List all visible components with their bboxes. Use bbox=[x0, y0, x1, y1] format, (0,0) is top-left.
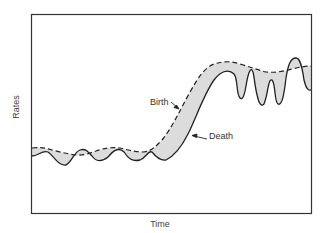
shaded-gap-region bbox=[32, 58, 311, 165]
y-axis-label: Rates bbox=[1, 93, 31, 121]
death-arrow bbox=[192, 134, 207, 139]
birth-death-chart bbox=[0, 0, 321, 233]
death-annotation: Death bbox=[209, 131, 233, 141]
plot-frame bbox=[32, 15, 312, 214]
x-axis-label: Time bbox=[140, 219, 180, 229]
birth-arrow bbox=[171, 102, 179, 109]
birth-annotation: Birth bbox=[150, 97, 169, 107]
